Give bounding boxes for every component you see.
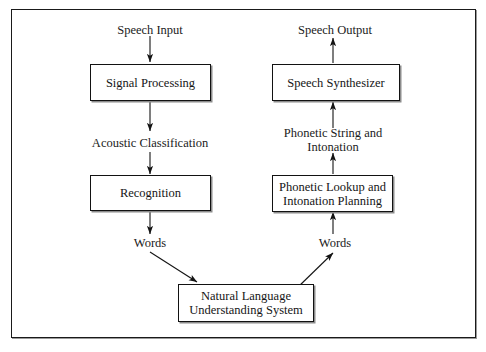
- box-phonetic-lookup-label: Phonetic Lookup and Intonation Planning: [273, 180, 392, 208]
- box-phonetic-lookup-and-intonation-planning[interactable]: Phonetic Lookup and Intonation Planning: [272, 175, 393, 212]
- box-natural-language-understanding-system[interactable]: Natural Language Understanding System: [178, 284, 314, 322]
- label-phonetic-string-and-intonation: Phonetic String and Intonation: [284, 126, 383, 154]
- label-words-left: Words: [134, 236, 166, 250]
- box-signal-processing-label: Signal Processing: [102, 76, 199, 90]
- box-speech-synthesizer[interactable]: Speech Synthesizer: [272, 64, 400, 101]
- box-speech-synthesizer-label: Speech Synthesizer: [283, 76, 389, 90]
- label-words-right: Words: [319, 236, 351, 250]
- box-signal-processing[interactable]: Signal Processing: [90, 64, 211, 101]
- box-nlu-label: Natural Language Understanding System: [179, 289, 313, 317]
- box-recognition[interactable]: Recognition: [90, 175, 211, 211]
- label-speech-output: Speech Output: [298, 23, 372, 37]
- label-speech-input: Speech Input: [117, 23, 183, 37]
- label-acoustic-classification: Acoustic Classification: [92, 136, 208, 150]
- box-recognition-label: Recognition: [116, 186, 185, 200]
- diagram-canvas: Speech Input Acoustic Classification Wor…: [0, 0, 486, 352]
